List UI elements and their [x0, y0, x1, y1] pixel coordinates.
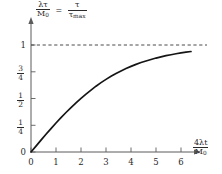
y-axis-arrow-icon [28, 17, 33, 24]
x-tick-label: 4 [128, 157, 133, 167]
fraction-one-half: 1 2 [17, 92, 24, 108]
y-tick-label-half: 1 2 [8, 92, 24, 108]
x-tick-label: 1 [53, 157, 58, 167]
y-tick-label-zero: 0 [21, 147, 26, 157]
y-axis [28, 17, 33, 152]
x-axis [31, 149, 201, 154]
y-axis-label: λτ M0 = τ τmax [36, 1, 87, 19]
y-tick-label-one: 1 [21, 40, 26, 50]
equals-sign: = [52, 6, 65, 15]
x-tick-label: 5 [153, 157, 158, 167]
figure-container: 0 1 2 3 4 5 6 0 1 1 4 1 2 3 4 [0, 0, 222, 174]
x-label-fraction: 4λt M0 [193, 139, 208, 157]
chart-canvas: 0 1 2 3 4 5 6 0 1 [0, 0, 222, 174]
x-tick-marks [31, 148, 181, 153]
data-curve [31, 52, 191, 152]
x-tick-label: 3 [103, 157, 108, 167]
x-tick-label: 6 [178, 157, 183, 167]
x-tick-label: 0 [28, 157, 33, 167]
y-label-right-fraction: τ τmax [68, 1, 87, 18]
x-tick-label: 2 [78, 157, 83, 167]
y-tick-label-quarter: 1 4 [8, 119, 24, 135]
y-tick-marks [31, 45, 36, 152]
fraction-three-quarters: 3 4 [17, 65, 24, 81]
fraction-one-quarter: 1 4 [17, 119, 24, 135]
x-tick-labels: 0 1 2 3 4 5 6 [28, 157, 183, 167]
y-tick-label-three-quarters: 3 4 [8, 65, 24, 81]
x-axis-label: 4λt M0 [193, 139, 208, 157]
y-label-left-fraction: λτ M0 [36, 1, 50, 19]
